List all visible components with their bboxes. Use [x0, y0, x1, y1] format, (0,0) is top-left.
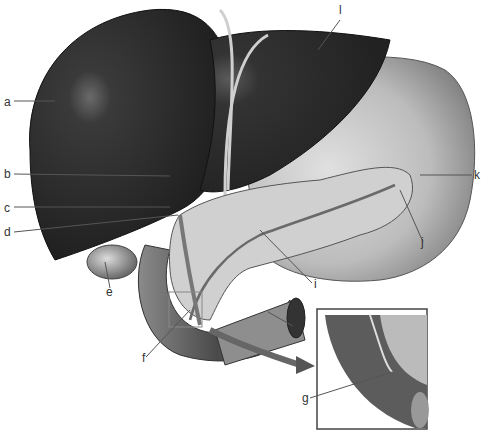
- label-f: f: [142, 352, 145, 364]
- label-l: l: [339, 4, 342, 16]
- label-j: j: [421, 236, 424, 248]
- label-c: c: [4, 202, 10, 214]
- label-b: b: [4, 168, 11, 180]
- detail-inset: [317, 309, 429, 429]
- gallbladder: [87, 245, 137, 279]
- anatomy-diagram: a b c d e f g h i j k l: [0, 0, 483, 436]
- illustration: [0, 0, 483, 436]
- label-d: d: [4, 226, 11, 238]
- label-i: i: [314, 278, 317, 290]
- label-e: e: [106, 286, 113, 298]
- label-a: a: [4, 96, 11, 108]
- label-g: g: [302, 392, 309, 404]
- label-k: k: [474, 169, 480, 181]
- label-h: h: [295, 320, 302, 332]
